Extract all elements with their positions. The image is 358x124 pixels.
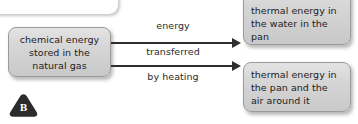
arrow-to-pan-head-icon [232, 61, 241, 71]
node-chemical-energy-source: chemical energy stored in the natural ga… [8, 27, 111, 77]
node-pan-label: thermal energy in the pan and the air ar… [251, 68, 343, 107]
node-thermal-energy-pan: thermal energy in the pan and the air ar… [243, 62, 351, 112]
cropped-top-card [0, 0, 118, 14]
energy-transfer-diagram: chemical energy stored in the natural ga… [0, 0, 358, 124]
node-source-label: chemical energy stored in the natural ga… [17, 33, 102, 72]
arrow-to-water-line [111, 42, 233, 44]
node-water-label: thermal energy in the water in the pan [251, 4, 343, 43]
figure-part-badge: B [8, 93, 39, 118]
badge-letter-label: B [8, 93, 39, 118]
node-thermal-energy-water: thermal energy in the water in the pan [243, 0, 351, 45]
arrow-caption-transferred: transferred [111, 46, 235, 57]
arrow-caption-energy: energy [111, 20, 235, 31]
arrow-caption-by-heating: by heating [111, 71, 235, 82]
arrow-to-pan-line [111, 65, 233, 67]
